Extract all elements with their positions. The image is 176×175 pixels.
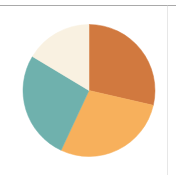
pie-chart-figure (0, 0, 176, 175)
pie-chart-svg (0, 0, 176, 175)
pie-slice-group (23, 25, 155, 157)
